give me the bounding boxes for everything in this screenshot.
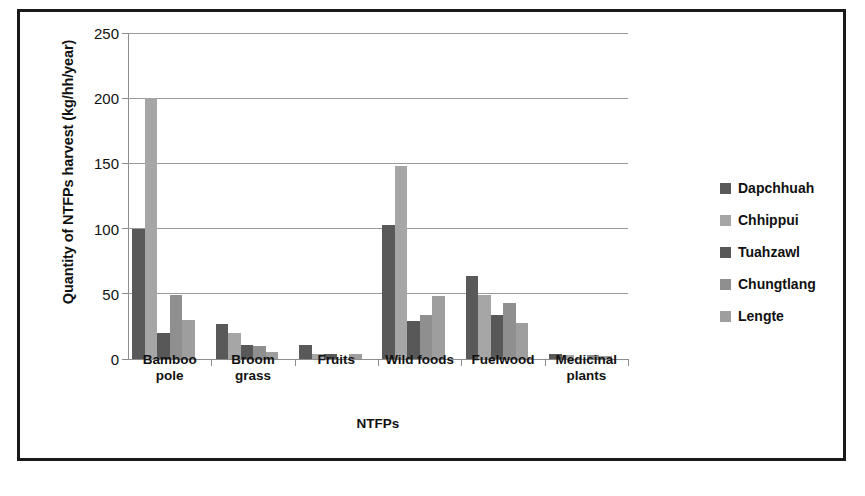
x-axis-group-label-line: Fruits xyxy=(295,352,378,368)
bar xyxy=(395,166,408,359)
legend-item-label: Chhippui xyxy=(738,212,799,228)
y-axis-tick-label: 100 xyxy=(94,220,119,237)
bar xyxy=(503,303,516,359)
legend-item: Chhippui xyxy=(720,204,816,236)
bar xyxy=(132,229,145,359)
gridline xyxy=(128,163,628,164)
legend-item-label: Tuahzawl xyxy=(738,244,800,260)
legend-item-label: Chungtlang xyxy=(738,276,816,292)
x-axis-group-label: Fruits xyxy=(295,352,378,368)
x-axis-group-label: Wild foods xyxy=(378,352,461,368)
x-axis-group-label-line: Fuelwood xyxy=(461,352,544,368)
chart-legend: DapchhuahChhippuiTuahzawlChungtlangLengt… xyxy=(720,172,816,332)
plot-area: 050100150200250 xyxy=(128,33,628,359)
x-axis-group-label: Medicinalplants xyxy=(545,352,628,384)
figure-frame: Quantity of NTFPs harvest (kg/hh/year) 0… xyxy=(17,9,846,461)
y-axis-tick xyxy=(122,98,128,99)
legend-swatch-icon xyxy=(720,279,731,290)
bar xyxy=(145,98,158,359)
x-axis-group-label-line: plants xyxy=(545,368,628,384)
y-axis-tick xyxy=(122,33,128,34)
x-axis-title: NTFPs xyxy=(128,416,628,431)
legend-item: Chungtlang xyxy=(720,268,816,300)
gridline xyxy=(128,293,628,294)
legend-swatch-icon xyxy=(720,183,731,194)
bar xyxy=(170,295,183,359)
legend-item: Dapchhuah xyxy=(720,172,816,204)
x-axis-group-label: Fuelwood xyxy=(461,352,544,368)
y-axis-tick xyxy=(122,293,128,294)
bar xyxy=(382,225,395,359)
x-axis-group-label-line: pole xyxy=(128,368,211,384)
x-axis-group-label-line: Bamboo xyxy=(128,352,211,368)
bar xyxy=(466,276,479,359)
y-axis-tick-label: 50 xyxy=(102,285,119,302)
legend-swatch-icon xyxy=(720,247,731,258)
legend-swatch-icon xyxy=(720,215,731,226)
bar xyxy=(478,295,491,359)
y-axis-tick-label: 150 xyxy=(94,155,119,172)
x-axis-group-label: Broomgrass xyxy=(211,352,294,384)
x-axis-tick xyxy=(628,359,629,366)
y-axis-tick xyxy=(122,228,128,229)
x-axis-group-label-line: grass xyxy=(211,368,294,384)
legend-item-label: Lengte xyxy=(738,308,784,324)
x-axis-group-label-line: Wild foods xyxy=(378,352,461,368)
legend-item-label: Dapchhuah xyxy=(738,180,814,196)
y-axis-tick-label: 250 xyxy=(94,25,119,42)
legend-swatch-icon xyxy=(720,311,731,322)
plot-canvas xyxy=(128,33,628,359)
x-axis-group-label-line: Broom xyxy=(211,352,294,368)
x-axis-group-label-line: Medicinal xyxy=(545,352,628,368)
x-axis-group-label: Bamboopole xyxy=(128,352,211,384)
y-axis-tick-label: 0 xyxy=(111,351,119,368)
legend-item: Lengte xyxy=(720,300,816,332)
legend-item: Tuahzawl xyxy=(720,236,816,268)
y-axis-title: Quantity of NTFPs harvest (kg/hh/year) xyxy=(60,17,76,327)
bar xyxy=(432,296,445,359)
y-axis-tick-label: 200 xyxy=(94,90,119,107)
gridline xyxy=(128,33,628,34)
gridline xyxy=(128,228,628,229)
gridline xyxy=(128,98,628,99)
y-axis-tick xyxy=(122,163,128,164)
